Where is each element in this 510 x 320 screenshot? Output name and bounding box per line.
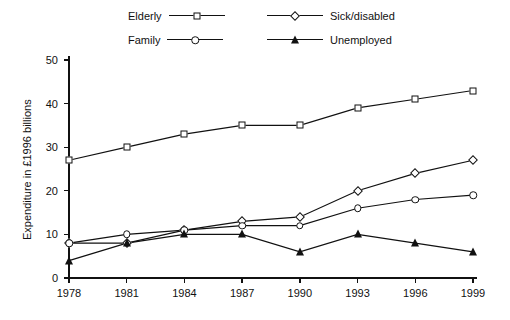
y-tick-label: 0 [36,272,58,284]
data-point-marker [354,204,362,212]
data-point-marker [469,247,477,255]
y-tick-label: 10 [36,228,58,240]
data-point-marker [123,231,131,239]
data-point-marker [296,247,304,255]
data-point-marker [66,157,73,164]
data-point-marker [296,222,304,230]
y-tick-label: 40 [36,98,58,110]
plot-area: 0102030405019781981198419871990199319961… [0,0,510,320]
data-point-marker [238,222,246,230]
data-point-marker [412,196,420,204]
data-point-marker [412,96,419,103]
data-point-marker [354,104,361,111]
x-tick-label: 1984 [164,287,204,299]
data-point-marker [411,239,419,247]
y-tick-label: 30 [36,141,58,153]
x-tick-label: 1996 [395,287,435,299]
data-point-marker [180,230,188,238]
data-point-marker [296,122,303,129]
data-point-marker [65,256,73,264]
x-tick-label: 1993 [338,287,378,299]
data-point-marker [469,191,477,199]
data-point-marker [239,122,246,129]
y-tick-label: 20 [36,185,58,197]
x-tick-label: 1999 [453,287,493,299]
x-tick-label: 1987 [222,287,262,299]
plot-svg [0,0,510,320]
chart-container: Elderly Sick/disabled Family [0,0,510,320]
y-axis-title: Expenditure in £1996 billions [21,99,33,240]
data-point-marker [470,87,477,94]
y-tick-label: 50 [36,54,58,66]
data-point-marker [238,230,246,238]
data-point-marker [65,239,73,247]
x-tick-label: 1981 [107,287,147,299]
data-point-marker [123,144,130,151]
data-point-marker [181,131,188,138]
x-tick-label: 1978 [49,287,89,299]
data-point-marker [354,230,362,238]
x-tick-label: 1990 [280,287,320,299]
data-point-marker [123,239,131,247]
